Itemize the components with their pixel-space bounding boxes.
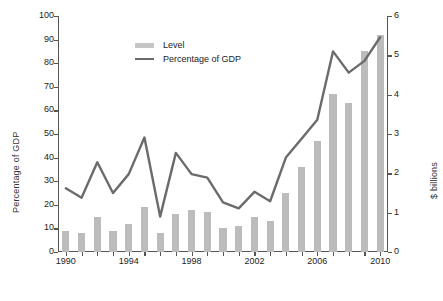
x-axis-ticklabel: 1998 <box>172 256 212 266</box>
y-axis-left-ticklabel: 10 <box>28 223 54 232</box>
y-axis-right-tick <box>388 55 392 56</box>
y-axis-right-tick <box>388 252 392 253</box>
y-axis-right-ticklabel: 4 <box>394 90 408 99</box>
x-axis-tick <box>97 252 98 256</box>
legend-label-level: Level <box>163 40 185 50</box>
y-axis-right-tick <box>388 16 392 17</box>
y-axis-right-ticklabel: 1 <box>394 208 408 217</box>
x-axis-tick <box>144 252 145 256</box>
x-axis-tick <box>176 252 177 256</box>
x-axis-ticklabel: 1994 <box>109 256 149 266</box>
x-axis-tick <box>223 252 224 256</box>
x-axis-tick <box>82 252 83 256</box>
plot-area: Level Percentage of GDP <box>58 16 388 252</box>
legend-bar-swatch-icon <box>135 43 154 48</box>
x-axis-tick <box>160 252 161 256</box>
x-axis-ticklabel: 2006 <box>297 256 337 266</box>
x-axis-tick <box>380 252 381 256</box>
y-axis-left-ticklabel: 80 <box>28 58 54 67</box>
x-axis-ticklabel: 1990 <box>46 256 86 266</box>
y-axis-right-title: $ billions <box>429 162 439 199</box>
y-axis-right-tick <box>388 134 392 135</box>
x-axis-ticklabel: 2010 <box>360 256 400 266</box>
x-axis-tick <box>129 252 130 256</box>
x-axis-tick <box>302 252 303 256</box>
y-axis-right-tick <box>388 213 392 214</box>
x-axis-tick <box>270 252 271 256</box>
y-axis-right-tick <box>388 95 392 96</box>
x-axis-ticklabels: 199019941998200220062010 <box>58 256 388 270</box>
y-axis-right-ticklabel: 2 <box>394 168 408 177</box>
legend-item-level: Level <box>135 38 241 52</box>
legend-line-swatch-icon <box>135 58 154 61</box>
x-axis-tick <box>66 252 67 256</box>
y-axis-right-ticklabel: 0 <box>394 247 408 256</box>
legend: Level Percentage of GDP <box>135 38 241 66</box>
x-axis-tick <box>317 252 318 256</box>
x-axis-tick <box>364 252 365 256</box>
y-axis-left-ticklabel: 50 <box>28 129 54 138</box>
y-axis-left-ticklabel: 0 <box>28 247 54 256</box>
x-axis-tick <box>207 252 208 256</box>
y-axis-left-ticklabel: 20 <box>28 200 54 209</box>
y-axis-right-ticklabel: 3 <box>394 129 408 138</box>
y-axis-left-ticklabel: 100 <box>28 11 54 20</box>
x-axis-ticklabel: 2002 <box>234 256 274 266</box>
chart-figure: Percentage of GDP $ billions 01020304050… <box>0 0 443 301</box>
x-axis-tick <box>286 252 287 256</box>
y-axis-left-ticklabel: 30 <box>28 176 54 185</box>
x-axis-tick <box>239 252 240 256</box>
legend-item-percentage-of-gdp: Percentage of GDP <box>135 52 241 66</box>
y-axis-left-ticklabel: 70 <box>28 82 54 91</box>
legend-label-percentage-of-gdp: Percentage of GDP <box>163 54 241 64</box>
x-axis-tick <box>254 252 255 256</box>
x-axis-tick <box>333 252 334 256</box>
x-axis-tick <box>349 252 350 256</box>
y-axis-right-tick <box>388 173 392 174</box>
x-axis-tick <box>113 252 114 256</box>
y-axis-right-ticklabel: 5 <box>394 50 408 59</box>
y-axis-left-ticklabel: 90 <box>28 35 54 44</box>
y-axis-left-ticklabel: 40 <box>28 153 54 162</box>
y-axis-right-ticklabel: 6 <box>394 11 408 20</box>
x-axis-tick <box>192 252 193 256</box>
y-axis-left-title: Percentage of GDP <box>11 132 21 213</box>
y-axis-left-ticklabel: 60 <box>28 105 54 114</box>
y-axis-left-tick <box>54 252 58 253</box>
